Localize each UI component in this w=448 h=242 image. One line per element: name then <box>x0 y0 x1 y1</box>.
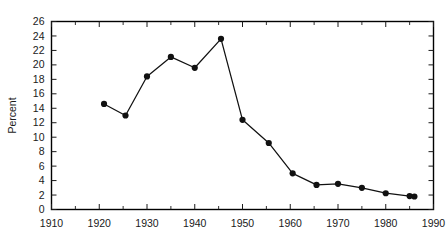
x-tick-label: 1980 <box>374 217 398 229</box>
data-point[interactable] <box>383 190 389 196</box>
data-point[interactable] <box>218 36 224 42</box>
x-tick-label: 1970 <box>326 217 350 229</box>
y-tick-label: 22 <box>33 44 45 56</box>
data-point[interactable] <box>266 140 272 146</box>
y-tick-label: 8 <box>39 145 45 157</box>
y-tick-label: 26 <box>33 15 45 27</box>
line-chart: 1910192019301940195019601970198019900246… <box>0 0 448 242</box>
data-point[interactable] <box>168 54 174 60</box>
chart-canvas: 1910192019301940195019601970198019900246… <box>0 0 448 242</box>
data-point[interactable] <box>290 170 296 176</box>
data-point[interactable] <box>335 181 341 187</box>
x-tick-label: 1940 <box>183 217 207 229</box>
y-tick-label: 6 <box>39 160 45 172</box>
y-tick-label: 16 <box>33 87 45 99</box>
data-point[interactable] <box>239 117 245 123</box>
data-point[interactable] <box>122 112 128 118</box>
data-point[interactable] <box>101 101 107 107</box>
y-tick-label: 14 <box>33 102 45 114</box>
data-point[interactable] <box>359 185 365 191</box>
y-axis-title: Percent <box>6 97 18 133</box>
plot-frame <box>52 22 434 210</box>
x-tick-label: 1930 <box>135 217 159 229</box>
y-tick-label: 24 <box>33 30 45 42</box>
y-tick-label: 4 <box>39 174 45 186</box>
y-tick-label: 18 <box>33 73 45 85</box>
x-tick-label: 1960 <box>279 217 303 229</box>
data-point[interactable] <box>313 182 319 188</box>
x-tick-label: 1950 <box>231 217 255 229</box>
series-line-percent <box>104 39 414 197</box>
data-point[interactable] <box>192 65 198 71</box>
y-tick-label: 12 <box>33 116 45 128</box>
x-tick-label: 1910 <box>40 217 64 229</box>
data-point[interactable] <box>144 73 150 79</box>
y-tick-label: 10 <box>33 131 45 143</box>
data-point[interactable] <box>411 193 417 199</box>
x-tick-label: 1920 <box>88 217 112 229</box>
y-tick-label: 20 <box>33 58 45 70</box>
y-tick-label: 0 <box>39 203 45 215</box>
x-tick-label: 1990 <box>422 217 446 229</box>
y-tick-label: 2 <box>39 189 45 201</box>
